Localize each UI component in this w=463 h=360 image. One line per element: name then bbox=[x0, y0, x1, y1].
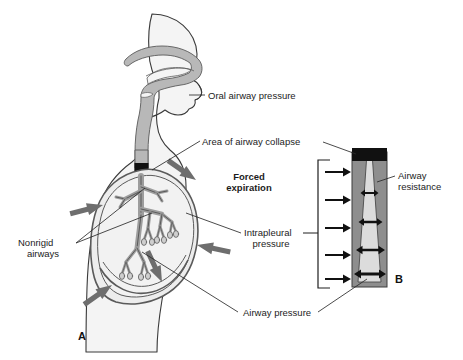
label-forced-expiration-line1: Forced bbox=[218, 171, 280, 182]
right-arrow-icon bbox=[325, 196, 351, 205]
label-area-of-airway-collapse: Area of airway collapse bbox=[202, 136, 300, 147]
bracket-icon bbox=[318, 160, 330, 288]
panel-b-group: B bbox=[303, 142, 403, 312]
label-airway-resistance-line1: Airway bbox=[398, 170, 427, 181]
label-intrapleural-pressure-line2: pressure bbox=[244, 238, 298, 249]
pressure-arrow-icon bbox=[196, 239, 232, 258]
label-nonrigid-airways-line1: Nonrigid bbox=[18, 237, 53, 248]
right-arrow-icon bbox=[325, 168, 351, 177]
label-nonrigid-airways-line2: airways bbox=[18, 248, 68, 259]
label-oral-airway-pressure: Oral airway pressure bbox=[208, 90, 296, 101]
label-intrapleural-pressure-line1: Intrapleural bbox=[244, 227, 292, 238]
leader-line-icon bbox=[323, 142, 356, 154]
panel-b-letter: B bbox=[395, 273, 403, 285]
leader-line-icon bbox=[318, 279, 367, 312]
panel-a-letter: A bbox=[78, 330, 86, 342]
right-arrow-icon bbox=[325, 224, 351, 233]
right-arrow-icon bbox=[325, 251, 351, 260]
intrapleural-pressure-arrows bbox=[325, 168, 351, 284]
label-forced-expiration-line2: expiration bbox=[213, 182, 285, 193]
airway-collapse-cap bbox=[352, 148, 387, 161]
right-arrow-icon bbox=[325, 275, 351, 284]
label-airway-resistance-line2: resistance bbox=[398, 181, 441, 192]
label-airway-pressure: Airway pressure bbox=[243, 307, 311, 318]
